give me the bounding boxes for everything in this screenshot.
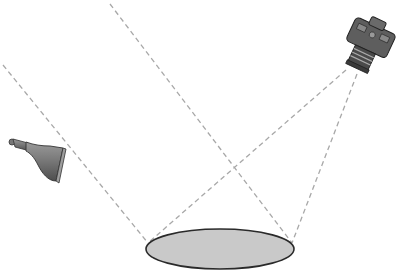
diagram-svg xyxy=(0,0,402,279)
view-ray-right xyxy=(292,74,357,243)
illumination-ray-left xyxy=(3,65,148,243)
diagram-canvas xyxy=(0,0,402,279)
camera-icon xyxy=(337,10,400,78)
surface-ellipse xyxy=(146,229,294,269)
lamp-icon xyxy=(9,139,66,183)
rays-group xyxy=(3,4,357,243)
illumination-ray-right xyxy=(110,4,292,243)
view-ray-left xyxy=(148,70,346,243)
